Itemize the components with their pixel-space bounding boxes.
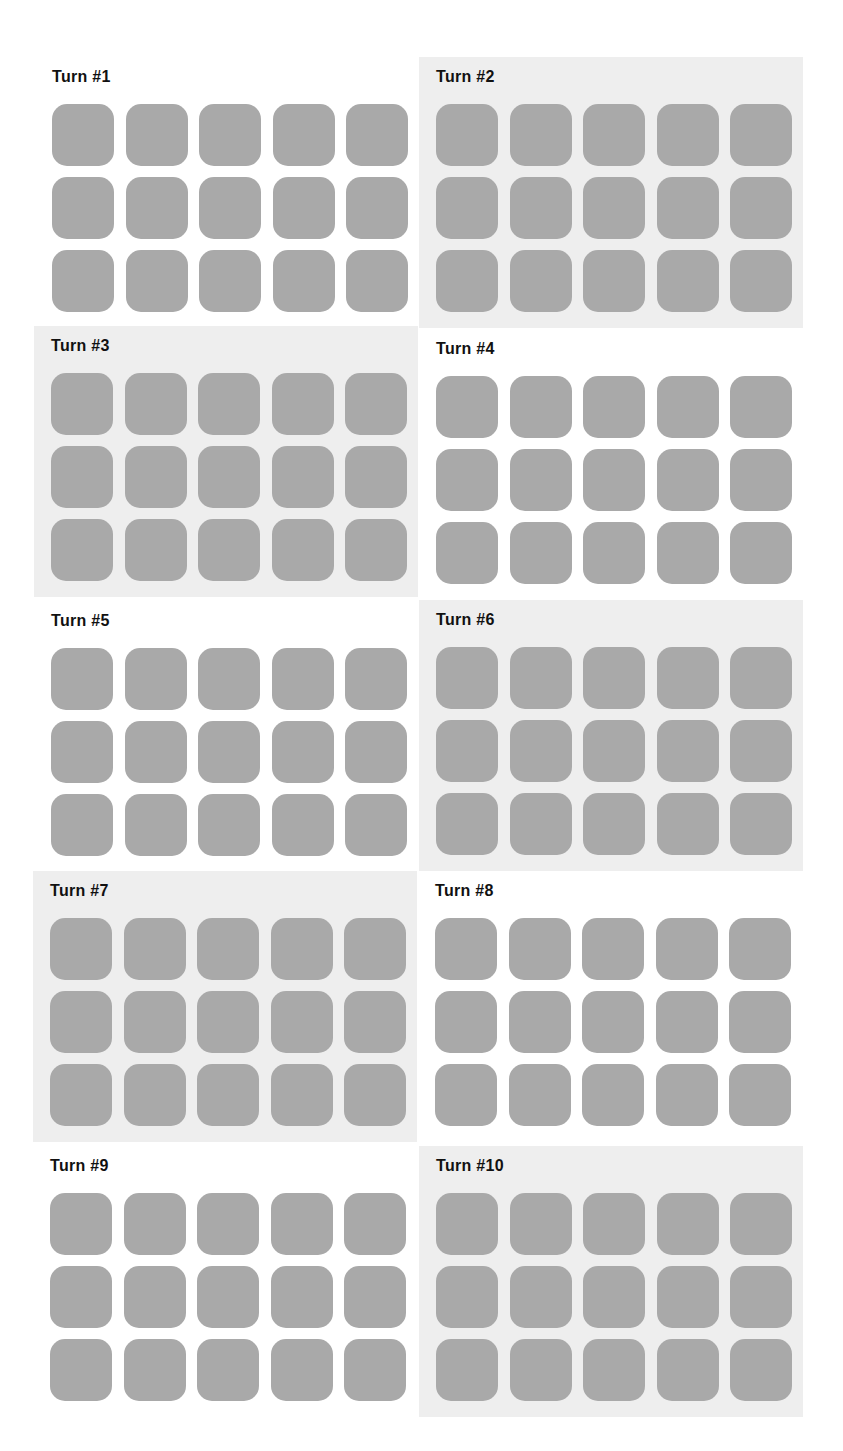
card-tile-r3-c2[interactable] (124, 1064, 186, 1126)
card-tile-r1-c2[interactable] (510, 647, 572, 709)
card-tile-r1-c1[interactable] (436, 647, 498, 709)
card-tile-r3-c5[interactable] (346, 250, 408, 312)
card-tile-r3-c3[interactable] (583, 1339, 645, 1401)
card-tile-r3-c2[interactable] (510, 522, 572, 584)
card-tile-r2-c5[interactable] (729, 991, 791, 1053)
card-tile-r3-c4[interactable] (273, 250, 335, 312)
card-tile-r2-c2[interactable] (126, 177, 188, 239)
card-tile-r3-c1[interactable] (436, 793, 498, 855)
card-tile-r3-c4[interactable] (272, 794, 334, 856)
card-tile-r2-c2[interactable] (510, 177, 572, 239)
card-tile-r3-c1[interactable] (436, 250, 498, 312)
card-tile-r1-c1[interactable] (52, 104, 114, 166)
card-tile-r1-c5[interactable] (730, 104, 792, 166)
card-tile-r2-c1[interactable] (50, 1266, 112, 1328)
card-tile-r2-c1[interactable] (436, 177, 498, 239)
card-tile-r3-c2[interactable] (509, 1064, 571, 1126)
card-tile-r1-c5[interactable] (345, 648, 407, 710)
card-tile-r2-c3[interactable] (197, 1266, 259, 1328)
card-tile-r1-c4[interactable] (272, 648, 334, 710)
card-tile-r3-c2[interactable] (510, 1339, 572, 1401)
card-tile-r2-c1[interactable] (50, 991, 112, 1053)
card-tile-r1-c2[interactable] (510, 104, 572, 166)
card-tile-r3-c3[interactable] (198, 794, 260, 856)
card-tile-r3-c3[interactable] (583, 522, 645, 584)
card-tile-r2-c5[interactable] (344, 1266, 406, 1328)
card-tile-r3-c3[interactable] (198, 519, 260, 581)
card-tile-r3-c1[interactable] (436, 522, 498, 584)
card-tile-r1-c5[interactable] (730, 647, 792, 709)
card-tile-r2-c5[interactable] (346, 177, 408, 239)
card-tile-r2-c2[interactable] (510, 720, 572, 782)
card-tile-r1-c3[interactable] (583, 376, 645, 438)
card-tile-r1-c2[interactable] (126, 104, 188, 166)
card-tile-r2-c2[interactable] (510, 449, 572, 511)
card-tile-r2-c1[interactable] (51, 446, 113, 508)
card-tile-r3-c5[interactable] (345, 794, 407, 856)
card-tile-r3-c5[interactable] (730, 793, 792, 855)
card-tile-r3-c5[interactable] (344, 1064, 406, 1126)
card-tile-r3-c2[interactable] (510, 250, 572, 312)
card-tile-r1-c4[interactable] (657, 647, 719, 709)
card-tile-r3-c1[interactable] (51, 519, 113, 581)
card-tile-r2-c4[interactable] (657, 449, 719, 511)
card-tile-r3-c5[interactable] (345, 519, 407, 581)
card-tile-r2-c2[interactable] (125, 721, 187, 783)
card-tile-r3-c1[interactable] (52, 250, 114, 312)
card-tile-r2-c4[interactable] (271, 991, 333, 1053)
card-tile-r2-c3[interactable] (198, 721, 260, 783)
card-tile-r3-c4[interactable] (657, 793, 719, 855)
card-tile-r1-c1[interactable] (435, 918, 497, 980)
card-tile-r1-c5[interactable] (345, 373, 407, 435)
card-tile-r3-c3[interactable] (197, 1339, 259, 1401)
card-tile-r1-c2[interactable] (125, 648, 187, 710)
card-tile-r2-c4[interactable] (657, 1266, 719, 1328)
card-tile-r1-c4[interactable] (657, 376, 719, 438)
card-tile-r2-c3[interactable] (198, 446, 260, 508)
card-tile-r1-c2[interactable] (510, 376, 572, 438)
card-tile-r3-c3[interactable] (583, 250, 645, 312)
card-tile-r2-c3[interactable] (583, 177, 645, 239)
card-tile-r2-c5[interactable] (344, 991, 406, 1053)
card-tile-r2-c3[interactable] (583, 1266, 645, 1328)
card-tile-r1-c4[interactable] (656, 918, 718, 980)
card-tile-r2-c2[interactable] (124, 1266, 186, 1328)
card-tile-r2-c4[interactable] (657, 177, 719, 239)
card-tile-r2-c3[interactable] (197, 991, 259, 1053)
card-tile-r2-c4[interactable] (656, 991, 718, 1053)
card-tile-r1-c3[interactable] (583, 104, 645, 166)
card-tile-r2-c1[interactable] (436, 449, 498, 511)
card-tile-r3-c4[interactable] (656, 1064, 718, 1126)
card-tile-r1-c3[interactable] (198, 648, 260, 710)
card-tile-r1-c2[interactable] (509, 918, 571, 980)
card-tile-r1-c1[interactable] (51, 373, 113, 435)
card-tile-r1-c5[interactable] (344, 1193, 406, 1255)
card-tile-r3-c4[interactable] (657, 1339, 719, 1401)
card-tile-r1-c4[interactable] (657, 104, 719, 166)
card-tile-r2-c3[interactable] (583, 720, 645, 782)
card-tile-r2-c4[interactable] (272, 446, 334, 508)
card-tile-r3-c1[interactable] (50, 1064, 112, 1126)
card-tile-r1-c1[interactable] (436, 376, 498, 438)
card-tile-r2-c1[interactable] (52, 177, 114, 239)
card-tile-r1-c2[interactable] (124, 918, 186, 980)
card-tile-r1-c4[interactable] (272, 373, 334, 435)
card-tile-r2-c2[interactable] (125, 446, 187, 508)
card-tile-r3-c4[interactable] (657, 522, 719, 584)
card-tile-r2-c1[interactable] (51, 721, 113, 783)
card-tile-r2-c1[interactable] (436, 720, 498, 782)
card-tile-r2-c5[interactable] (730, 449, 792, 511)
card-tile-r2-c4[interactable] (657, 720, 719, 782)
card-tile-r1-c5[interactable] (346, 104, 408, 166)
card-tile-r2-c4[interactable] (271, 1266, 333, 1328)
card-tile-r1-c5[interactable] (344, 918, 406, 980)
card-tile-r2-c4[interactable] (272, 721, 334, 783)
card-tile-r2-c5[interactable] (730, 720, 792, 782)
card-tile-r3-c3[interactable] (582, 1064, 644, 1126)
card-tile-r3-c4[interactable] (657, 250, 719, 312)
card-tile-r3-c1[interactable] (436, 1339, 498, 1401)
card-tile-r1-c3[interactable] (199, 104, 261, 166)
card-tile-r3-c3[interactable] (199, 250, 261, 312)
card-tile-r1-c2[interactable] (125, 373, 187, 435)
card-tile-r3-c4[interactable] (272, 519, 334, 581)
